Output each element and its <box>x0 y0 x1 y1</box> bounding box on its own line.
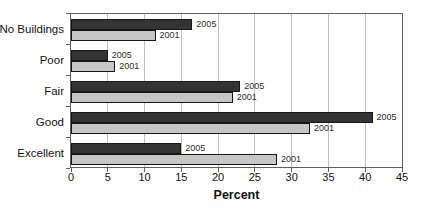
x-axis-tick-label: 30 <box>277 171 307 183</box>
bar-value-label: 2001 <box>119 61 139 72</box>
bar-2005-no-buildings <box>71 19 192 30</box>
x-axis-tick-label: 15 <box>166 171 196 183</box>
category-label: Good <box>0 106 64 137</box>
bar-value-label: 2005 <box>196 19 216 30</box>
bar-2001-good <box>71 123 310 134</box>
bar-value-label: 2001 <box>160 30 180 41</box>
bar-2005-excellent <box>71 143 181 154</box>
x-axis-tick-label: 10 <box>130 171 160 183</box>
x-axis-tick-label: 5 <box>93 171 123 183</box>
x-axis-tick-label: 20 <box>203 171 233 183</box>
bar-value-label: 2005 <box>112 50 132 61</box>
bar-chart: No BuildingsPoorFairGoodExcellent 200520… <box>0 0 421 213</box>
bar-value-label: 2001 <box>281 154 301 165</box>
x-axis-tick-label: 25 <box>240 171 270 183</box>
x-axis-title: Percent <box>70 188 403 202</box>
category-row: 20052001 <box>71 107 402 138</box>
plot-area: 2005200120052001200520012005200120052001 <box>70 13 403 168</box>
category-row: 20052001 <box>71 138 402 169</box>
y-axis-tick <box>66 106 70 107</box>
bar-value-label: 2005 <box>185 143 205 154</box>
category-label: Fair <box>0 75 64 106</box>
bar-value-label: 2001 <box>237 92 257 103</box>
bar-2001-fair <box>71 92 233 103</box>
x-axis-tick-label: 40 <box>350 171 380 183</box>
category-row: 20052001 <box>71 14 402 45</box>
category-axis: No BuildingsPoorFairGoodExcellent <box>0 13 64 168</box>
bar-2005-good <box>71 112 373 123</box>
category-row: 20052001 <box>71 76 402 107</box>
category-label: Excellent <box>0 137 64 168</box>
bar-2005-poor <box>71 50 108 61</box>
y-axis-tick <box>66 137 70 138</box>
bar-2001-no-buildings <box>71 30 156 41</box>
y-axis-tick <box>66 75 70 76</box>
y-axis-tick <box>66 168 70 169</box>
x-axis-tick-label: 45 <box>387 171 417 183</box>
category-row: 20052001 <box>71 45 402 76</box>
x-axis-tick-label: 0 <box>56 171 86 183</box>
bar-2005-fair <box>71 81 240 92</box>
y-axis-tick <box>66 13 70 14</box>
category-label: No Buildings <box>0 13 64 44</box>
bar-value-label: 2001 <box>314 123 334 134</box>
bar-value-label: 2005 <box>377 112 397 123</box>
bar-2001-poor <box>71 61 115 72</box>
y-axis-tick <box>66 44 70 45</box>
bar-2001-excellent <box>71 154 277 165</box>
category-label: Poor <box>0 44 64 75</box>
bar-value-label: 2005 <box>244 81 264 92</box>
x-axis-tick-label: 35 <box>313 171 343 183</box>
